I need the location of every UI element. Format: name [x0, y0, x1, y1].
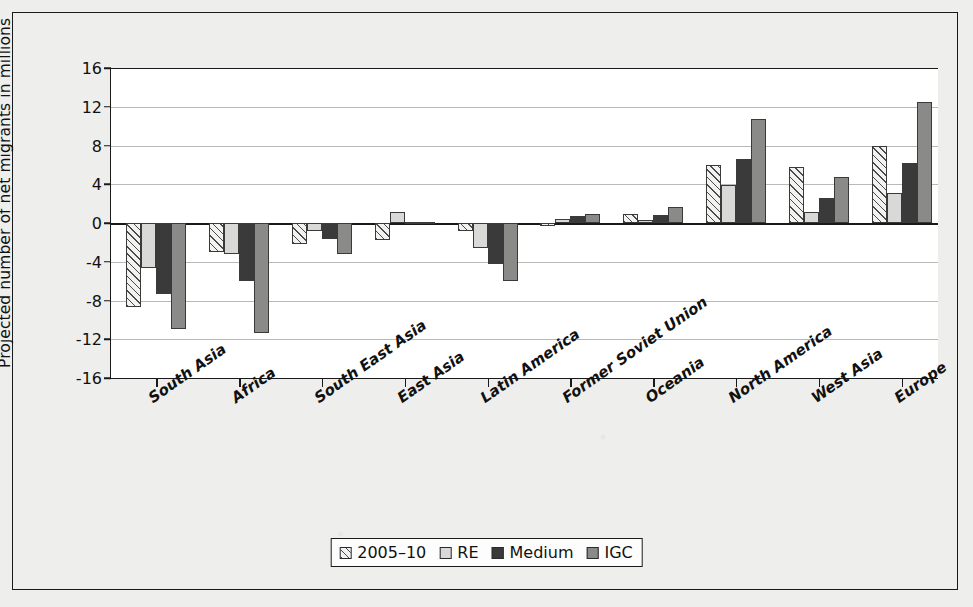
bar	[322, 223, 337, 239]
y-tick-mark-12	[104, 106, 111, 108]
bar	[254, 223, 269, 333]
legend-swatch-icon	[587, 547, 599, 559]
bar-group	[706, 68, 766, 378]
bar	[751, 119, 766, 223]
bar	[902, 163, 917, 223]
bar	[638, 220, 653, 223]
bar	[420, 222, 435, 224]
bar	[405, 222, 420, 224]
bar	[623, 214, 638, 223]
y-tick-mark--12	[104, 339, 111, 341]
bar-group	[872, 68, 932, 378]
bar	[239, 223, 254, 281]
legend-label: Medium	[510, 543, 574, 562]
bar	[458, 223, 473, 231]
legend-swatch-icon	[439, 547, 451, 559]
bar-group	[292, 68, 352, 378]
bar	[789, 167, 804, 223]
bar	[209, 223, 224, 252]
legend-label: RE	[457, 543, 478, 562]
bar	[887, 193, 902, 223]
bar	[585, 214, 600, 223]
bar	[390, 212, 405, 223]
bar	[706, 165, 721, 223]
legend-item: IGC	[587, 543, 633, 562]
bar	[653, 215, 668, 223]
y-tick-label-12: 12	[82, 97, 102, 116]
bar	[668, 207, 683, 223]
bar	[488, 223, 503, 264]
y-tick-mark--8	[104, 300, 111, 302]
y-tick-label--4: -4	[86, 252, 102, 271]
bar	[736, 159, 751, 223]
y-tick-mark--4	[104, 261, 111, 263]
bar	[503, 223, 518, 281]
y-tick-label-8: 8	[92, 136, 102, 155]
chart-legend: 2005–10REMediumIGC	[330, 538, 643, 567]
y-tick-label-16: 16	[82, 59, 102, 78]
y-tick-mark-0	[104, 222, 111, 224]
bar	[224, 223, 239, 254]
bar-group	[458, 68, 518, 378]
bar	[375, 223, 390, 240]
bar	[721, 185, 736, 223]
legend-label: IGC	[605, 543, 633, 562]
bar	[473, 223, 488, 248]
bar	[156, 223, 171, 294]
bar	[917, 102, 932, 223]
legend-item: 2005–10	[339, 543, 426, 562]
bar	[337, 223, 352, 254]
y-tick-label-4: 4	[92, 175, 102, 194]
bar	[555, 219, 570, 223]
legend-label: 2005–10	[357, 543, 426, 562]
y-tick-label--16: -16	[76, 369, 102, 388]
y-tick-label--12: -12	[76, 330, 102, 349]
y-tick-label-0: 0	[92, 214, 102, 233]
y-tick-mark--16	[104, 377, 111, 379]
bar	[872, 146, 887, 224]
bar	[570, 216, 585, 223]
y-tick-mark-4	[104, 184, 111, 186]
y-axis-title-text: Projected number of net migrants in mill…	[0, 18, 14, 368]
y-tick-mark-8	[104, 145, 111, 147]
y-tick-mark-16	[104, 67, 111, 69]
bar	[804, 212, 819, 223]
legend-item: Medium	[492, 543, 574, 562]
bar	[171, 223, 186, 329]
bar	[141, 223, 156, 268]
bar	[307, 223, 322, 231]
legend-item: RE	[439, 543, 478, 562]
bar-group	[126, 68, 186, 378]
bar	[292, 223, 307, 244]
bar	[834, 177, 849, 224]
bar-group	[209, 68, 269, 378]
legend-swatch-icon	[492, 547, 504, 559]
y-axis-title: Projected number of net migrants in mill…	[0, 0, 20, 30]
bar	[540, 223, 555, 226]
bar	[819, 198, 834, 223]
bar	[126, 223, 141, 307]
chart-figure: Projected number of net migrants in mill…	[0, 0, 973, 607]
legend-swatch-icon	[339, 547, 351, 559]
y-tick-label--8: -8	[86, 291, 102, 310]
